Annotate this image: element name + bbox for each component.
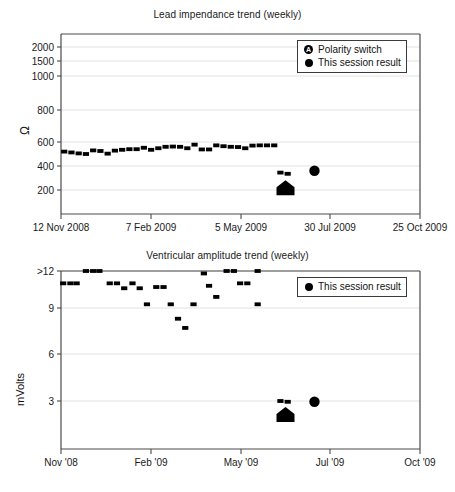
polarity-switch-marker (277, 180, 295, 195)
polarity-switch-marker (277, 407, 295, 422)
y-tick-label: 2000 (32, 42, 55, 53)
data-point-square (83, 152, 89, 156)
data-point-square (148, 148, 154, 152)
data-point-square (68, 151, 74, 155)
data-point-square (177, 145, 183, 149)
data-point-square (112, 149, 118, 153)
x-tick-label: May '09 (224, 457, 259, 468)
y-tick-label: 600 (37, 137, 54, 148)
data-point-square (83, 269, 89, 273)
data-point-square (60, 281, 66, 285)
data-point-square (231, 269, 237, 273)
x-tick-label: 7 Feb 2009 (126, 222, 177, 233)
amplitude-legend: This session result (297, 277, 407, 297)
data-point-square (277, 399, 283, 403)
impedance-legend: A Polarity switch This session result (297, 40, 407, 73)
y-tick-label: 3 (48, 396, 54, 407)
legend-row-session-result: This session result (302, 56, 401, 69)
data-point-square (90, 269, 96, 273)
data-point-square (121, 286, 127, 290)
data-point-square (119, 148, 125, 152)
session-result-marker (309, 166, 319, 176)
data-point-square (244, 281, 250, 285)
data-point-square (74, 281, 80, 285)
legend-label-polarity-switch: Polarity switch (318, 43, 382, 56)
data-point-square (175, 317, 181, 321)
circle-icon (302, 56, 315, 69)
data-point-square (255, 302, 261, 306)
data-point-square (237, 281, 243, 285)
data-point-square (206, 284, 212, 288)
data-point-square (162, 145, 168, 149)
data-point-square (134, 147, 140, 151)
data-point-square (126, 147, 132, 151)
legend-label-session-result: This session result (318, 280, 401, 293)
data-point-square (213, 295, 219, 299)
data-point-square (137, 286, 143, 290)
data-point-square (155, 146, 161, 150)
y-tick-label: 400 (37, 161, 54, 172)
data-point-square (228, 145, 234, 149)
circle-icon (302, 280, 315, 293)
x-tick-label: Jul '09 (316, 457, 345, 468)
data-point-square (199, 148, 205, 152)
impedance-plot-area: 20001500100080060040020012 Nov 20087 Feb… (0, 0, 455, 246)
data-point-square (67, 281, 73, 285)
y-tick-label: 6 (48, 349, 54, 360)
data-point-square (160, 285, 166, 289)
y-tick-label: 1000 (32, 71, 55, 82)
data-point-square (141, 146, 147, 150)
y-tick-label: 9 (48, 303, 54, 314)
data-point-square (206, 148, 212, 152)
session-result-marker (309, 397, 319, 407)
data-point-square (61, 150, 67, 154)
x-tick-label: 12 Nov 2008 (33, 222, 90, 233)
data-point-square (242, 146, 248, 150)
data-point-square (285, 172, 291, 176)
y-tick-label: 1500 (32, 56, 55, 67)
data-point-square (190, 302, 196, 306)
data-point-square (271, 143, 277, 147)
data-point-square (107, 281, 113, 285)
data-point-square (153, 285, 159, 289)
y-tick-label: 800 (37, 105, 54, 116)
x-tick-label: Feb '09 (134, 457, 167, 468)
legend-row-session-result: This session result (302, 280, 401, 293)
data-point-square (224, 269, 230, 273)
y-tick-label: 200 (37, 185, 54, 196)
legend-row-polarity-switch: A Polarity switch (302, 43, 401, 56)
data-point-square (285, 400, 291, 404)
data-point-square (168, 302, 174, 306)
x-tick-label: Nov '08 (44, 457, 78, 468)
x-tick-label: 30 Jul 2009 (304, 222, 356, 233)
y-tick-label: >12 (37, 266, 54, 277)
data-point-square (255, 269, 261, 273)
data-point-square (249, 144, 255, 148)
x-tick-label: Oct '09 (404, 457, 436, 468)
data-point-square (76, 152, 82, 156)
circle-a-icon: A (302, 43, 315, 56)
data-point-square (105, 152, 111, 156)
data-point-square (182, 326, 188, 330)
data-point-square (235, 145, 241, 149)
data-point-square (213, 143, 219, 147)
ventricular-amplitude-chart-panel: Ventricular amplitude trend (weekly) mVo… (0, 246, 455, 492)
x-tick-label: 25 Oct 2009 (393, 222, 448, 233)
data-point-square (264, 143, 270, 147)
legend-label-session-result: This session result (318, 56, 401, 69)
lead-impedance-chart-panel: Lead impendance trend (weekly) Ω 2000150… (0, 0, 455, 246)
x-tick-label: 5 May 2009 (215, 222, 268, 233)
data-point-square (114, 281, 120, 285)
data-point-square (144, 302, 150, 306)
data-point-square (96, 269, 102, 273)
data-point-square (220, 144, 226, 148)
data-point-square (184, 146, 190, 150)
data-point-square (257, 143, 263, 147)
data-point-square (129, 281, 135, 285)
data-point-square (201, 272, 207, 276)
data-point-square (277, 171, 283, 175)
data-point-square (97, 149, 103, 153)
data-point-square (90, 149, 96, 153)
data-point-square (191, 143, 197, 147)
data-point-square (170, 145, 176, 149)
